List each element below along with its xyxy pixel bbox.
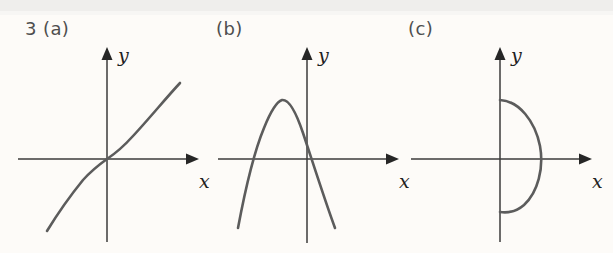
y-axis-label-c: y (510, 44, 522, 66)
y-axis-arrowhead-c (495, 47, 506, 60)
graph-panel-b: x y (200, 0, 405, 253)
curve-arc-c (500, 100, 541, 212)
x-axis-label-c: x (592, 170, 603, 192)
y-axis-arrowhead-b (302, 47, 313, 60)
curve-parabola-b (238, 100, 335, 228)
figure-root: 3 (a) x y (b) x y (c) (0, 0, 613, 253)
x-axis-arrowhead-a (186, 154, 199, 165)
graph-panel-a: x y (0, 0, 205, 253)
y-axis-label-a: y (117, 44, 129, 66)
y-axis-arrowhead-a (102, 47, 113, 60)
curve-cubic-a (47, 83, 180, 231)
y-axis-label-b: y (317, 44, 329, 66)
x-axis-arrowhead-c (579, 154, 592, 165)
graph-panel-c: x y (393, 0, 613, 253)
